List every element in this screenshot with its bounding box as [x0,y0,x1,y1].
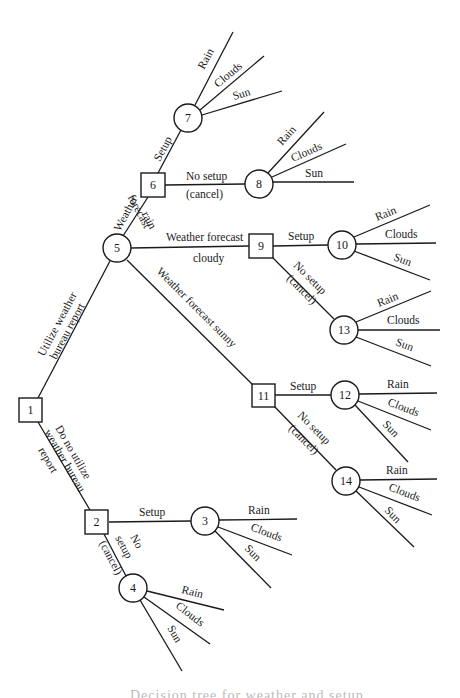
node-label-10: 10 [336,238,348,252]
outcome-label-7-rain: Rain [195,46,216,71]
decision-node-9: 9 [249,234,273,258]
outcome-label-10-sun: Sun [392,251,413,268]
node-label-4: 4 [130,581,136,595]
chance-node-13: 13 [330,316,358,344]
node-label-8: 8 [256,177,262,191]
figure-caption-cropped: Decision tree for weather and setup [130,688,390,698]
outcome-label-10-clouds: Clouds [385,228,418,240]
node-label-9: 9 [258,239,264,253]
chance-node-7: 7 [174,104,202,132]
chance-node-12: 12 [331,381,359,409]
outcome-label-8-clouds: Clouds [289,139,324,163]
outcome-3-rain [219,519,297,520]
node-label-2: 2 [94,515,100,529]
edge-6-8 [165,184,245,185]
outcome-labels: Rain Clouds Sun Rain Clouds Sun Rain Clo… [165,46,422,645]
outcome-12-sun [355,405,408,462]
node-label-6: 6 [150,178,156,192]
outcome-label-4-rain: Rain [181,583,205,600]
node-label-14: 14 [340,474,352,488]
decision-node-2: 2 [85,510,108,534]
outcome-10-sun [354,251,430,280]
edge-label-6-8-line2: (cancel) [186,188,223,201]
outcome-label-13-sun: Sun [394,336,415,353]
edge-2-3 [109,521,191,522]
decision-node-1: 1 [19,398,42,422]
outcome-label-13-clouds: Clouds [387,314,420,326]
node-label-12: 12 [339,388,351,402]
edge-label-5-9-line2: cloudy [193,252,225,265]
outcome-14-sun [356,491,414,547]
edge-label-5-9-line1: Weather forecast [166,231,244,243]
edge-labels: Utilize weather bureau report Do no util… [35,134,333,577]
outcome-12-rain [359,393,437,394]
outcome-label-4-sun: Sun [165,623,184,645]
edge-5-9 [131,246,249,248]
outcome-label-4-clouds: Clouds [174,599,207,629]
decision-node-6: 6 [141,173,165,197]
outcome-label-7-sun: Sun [231,85,252,102]
edge-label-2-3: Setup [139,506,165,519]
node-label-11: 11 [258,389,270,403]
outcome-label-8-sun: Sun [305,167,323,179]
chance-node-5: 5 [103,234,131,262]
outcome-10-clouds [356,243,436,244]
edge-label-5-11: Weather forecast sunny [154,265,239,350]
outcome-14-rain [360,479,437,480]
edge-9-10 [273,245,328,246]
chance-node-14: 14 [332,467,360,495]
node-label-7: 7 [185,111,191,125]
chance-node-4: 4 [119,574,147,602]
decision-node-11: 11 [252,384,275,407]
edge-label-9-10: Setup [288,230,314,243]
node-label-13: 13 [338,323,350,337]
node-label-5: 5 [114,241,120,255]
outcome-3-sun [215,531,271,588]
outcome-label-14-rain: Rain [386,464,408,476]
chance-node-10: 10 [328,231,356,259]
outcome-label-14-sun: Sun [383,504,404,525]
node-label-3: 3 [202,514,208,528]
edge-5-11 [127,260,253,385]
chance-node-3: 3 [191,507,219,535]
edge-label-6-8-line1: No setup [186,170,227,183]
chance-node-8: 8 [245,170,273,198]
outcome-13-sun [356,337,431,366]
edge-label-11-12: Setup [290,380,316,393]
edges [38,32,440,671]
outcome-label-12-rain: Rain [387,378,409,390]
outcome-label-3-sun: Sun [243,542,264,563]
outcome-label-12-clouds: Clouds [386,396,421,419]
outcome-label-3-rain: Rain [248,504,270,516]
node-label-1: 1 [28,403,34,417]
